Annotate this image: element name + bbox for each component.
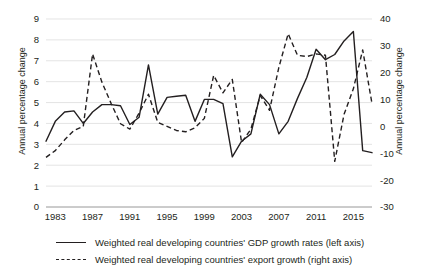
x-axis-tick-label: 1983 [45,211,66,222]
legend-swatch-solid-line-icon [56,238,86,248]
y-axis-left-tick-label: 8 [34,34,39,45]
y-axis-left-tick-label: 0 [34,201,39,212]
x-axis-tick-label: 1987 [82,211,103,222]
chart-container: Annual percentage change Annual percenta… [0,0,421,274]
y-axis-left-tick-label: 1 [34,181,39,192]
x-axis-tick-label: 1995 [157,211,178,222]
gridlines-group [46,19,372,207]
legend-label-gdp-growth: Weighted real developing countries' GDP … [95,237,364,248]
legend-item-gdp-growth: Weighted real developing countries' GDP … [56,234,396,251]
y-axis-right-tick-labels: -30-20-10010203040 [380,13,394,212]
series-line-export-growth [46,34,372,162]
chart-plot-area: 0123456789 -30-20-10010203040 1983198719… [0,0,421,274]
x-axis-tick-labels: 198319871991199519992003200720112015 [45,211,364,222]
chart-legend: Weighted real developing countries' GDP … [56,234,396,268]
x-axis-tick-label: 2007 [268,211,289,222]
y-axis-right-tick-label: 20 [380,67,391,78]
x-axis-tick-label: 2003 [231,211,252,222]
y-axis-right-tick-label: 10 [380,94,391,105]
y-axis-left-tick-label: 6 [34,76,39,87]
y-axis-right-tick-label: 40 [380,13,391,24]
y-axis-left-tick-labels: 0123456789 [34,13,39,212]
y-axis-right-tick-label: -30 [380,201,394,212]
legend-swatch-dashed-line-icon [56,255,86,265]
y-axis-left-tick-label: 2 [34,160,39,171]
x-axis-tick-label: 2011 [306,211,326,222]
y-axis-right-tick-label: -10 [380,148,394,159]
y-axis-right-tick-label: -20 [380,175,394,186]
legend-label-export-growth: Weighted real developing countries' expo… [95,254,352,265]
x-axis-tick-label: 1991 [119,211,140,222]
y-axis-right-tick-label: 0 [380,121,385,132]
y-axis-left-tick-label: 4 [34,118,39,129]
y-axis-left-tick-label: 5 [34,97,39,108]
legend-item-export-growth: Weighted real developing countries' expo… [56,251,396,268]
x-axis-tick-label: 2015 [343,211,364,222]
y-axis-left-tick-label: 3 [34,139,39,150]
y-axis-left-tick-label: 7 [34,55,39,66]
x-axis-tick-label: 1999 [194,211,215,222]
y-axis-left-tick-label: 9 [34,13,39,24]
y-axis-right-tick-label: 30 [380,40,391,51]
